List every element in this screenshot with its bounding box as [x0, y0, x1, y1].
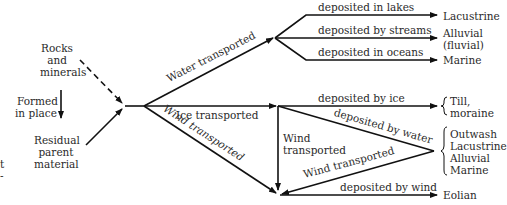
formed-line2: in place — [15, 107, 58, 119]
residual-parent-material-label: Residual parent material — [34, 134, 78, 170]
wind-vertical-line1: Wind — [283, 132, 346, 144]
formed-in-place-label: Formed in place — [15, 95, 58, 119]
edge-fragment-t: t — [0, 158, 4, 170]
till-moraine-result: Till, moraine — [450, 95, 494, 119]
deposited-in-lakes-label: deposited in lakes — [318, 1, 414, 13]
alluvial-group-result: Alluvial — [450, 152, 507, 164]
eolian-result: Eolian — [443, 189, 477, 201]
rocks-line1: Rocks — [40, 42, 74, 54]
till-line2: moraine — [450, 107, 494, 119]
water-deposit-results-group: Outwash Lacustrine Alluvial Marine — [450, 128, 507, 176]
outwash-result: Outwash — [450, 128, 507, 140]
residual-line2: parent — [34, 146, 78, 158]
alluvial-line1: Alluvial — [443, 27, 484, 39]
marine-group-result: Marine — [450, 164, 507, 176]
alluvial-line2: (fluvial) — [443, 39, 484, 51]
formed-line1: Formed — [15, 95, 58, 107]
deposited-by-wind-label: deposited by wind — [340, 181, 437, 193]
rocks-line3: minerals — [40, 66, 74, 78]
deposited-in-oceans-label: deposited in oceans — [318, 46, 424, 58]
wind-transported-vertical-label: Wind transported — [283, 132, 346, 156]
alluvial-fluvial-result: Alluvial (fluvial) — [443, 27, 484, 51]
residual-line1: Residual — [34, 134, 78, 146]
residual-line3: material — [34, 158, 78, 170]
till-line1: Till, — [450, 95, 494, 107]
edge-fragment-dash: - — [0, 170, 4, 182]
wind-vertical-line2: transported — [283, 144, 346, 156]
lacustrine-result: Lacustrine — [443, 10, 500, 22]
rocks-and-minerals-label: Rocks and minerals — [40, 42, 74, 78]
marine-result: Marine — [443, 54, 481, 66]
rocks-line2: and — [40, 54, 74, 66]
deposited-by-ice-label: deposited by ice — [318, 92, 405, 104]
lacustrine-group-result: Lacustrine — [450, 140, 507, 152]
deposited-by-streams-label: deposited by streams — [318, 24, 432, 36]
